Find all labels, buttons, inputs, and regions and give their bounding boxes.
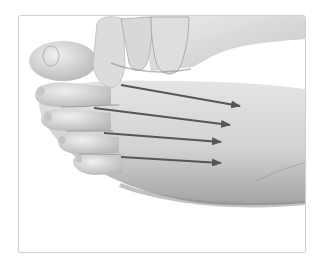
hand: [93, 16, 305, 87]
big-toe: [29, 41, 97, 81]
image-frame: Hand pressing between toes of a foot wit…: [18, 15, 306, 253]
foot-massage-photo: [19, 16, 305, 252]
second-toe: [35, 83, 111, 108]
